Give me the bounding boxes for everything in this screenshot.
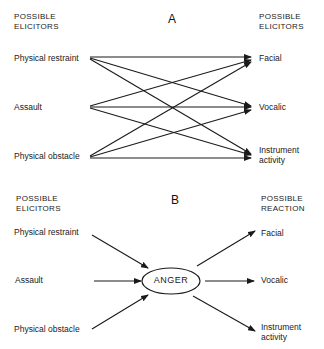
diagram-arrows <box>0 0 324 349</box>
anger-node-label: ANGER <box>142 275 200 285</box>
panel-a-connections <box>90 57 251 158</box>
